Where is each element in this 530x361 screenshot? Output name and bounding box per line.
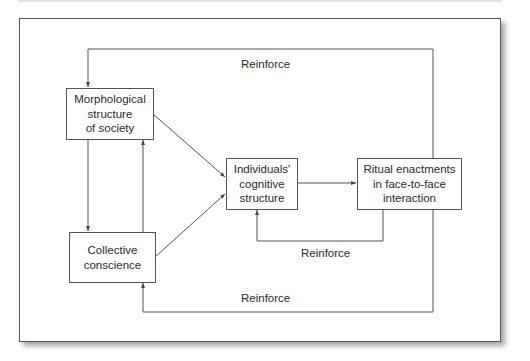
node-morphological-structure: Morphological structure of society bbox=[66, 88, 154, 140]
node-collective-conscience: Collective conscience bbox=[69, 232, 156, 283]
node-individuals-cognitive-structure: Individuals' cognitive structure bbox=[226, 158, 298, 210]
inner-reinforce-arrow bbox=[257, 209, 383, 241]
label-bottom-reinforce: Reinforce bbox=[241, 292, 290, 304]
label-inner-reinforce: Reinforce bbox=[301, 247, 350, 259]
collective-to-individuals-arrow bbox=[155, 194, 225, 257]
label-top-reinforce: Reinforce bbox=[241, 58, 290, 70]
node-ritual-enactments: Ritual enactments in face-to-face intera… bbox=[357, 158, 462, 210]
morph-to-individuals-arrow bbox=[153, 114, 225, 177]
